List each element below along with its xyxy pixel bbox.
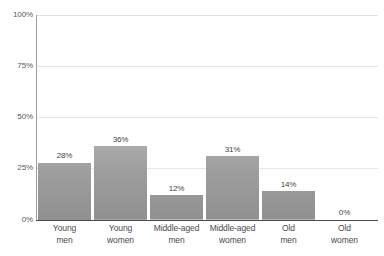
x-label-line1: Old [282, 223, 295, 233]
bar-slot-middle-aged-men: 12% [150, 15, 203, 220]
x-label-line1: Middle-aged [210, 223, 256, 233]
bar-old-men[interactable] [262, 191, 315, 220]
x-label-line1: Young [109, 223, 132, 233]
bar-slot-old-women: 0% [318, 15, 371, 220]
bar-value-old-men: 14% [262, 180, 315, 189]
bars-layer: 28% 36% 12% 31% 14% 0% [36, 15, 378, 220]
y-tick-label-100: 100% [1, 11, 33, 19]
x-label-line2: men [145, 235, 208, 247]
x-label-line2: men [33, 235, 96, 247]
x-axis-baseline [36, 220, 378, 221]
x-label-young-women: Young women [89, 223, 152, 246]
x-label-old-women: Old women [313, 223, 376, 246]
bar-slot-middle-aged-women: 31% [206, 15, 259, 220]
x-label-line2: women [201, 235, 264, 247]
bar-middle-aged-women[interactable] [206, 156, 259, 220]
bar-slot-young-men: 28% [38, 15, 91, 220]
bar-young-women[interactable] [94, 146, 147, 220]
x-label-line1: Young [53, 223, 76, 233]
bar-young-men[interactable] [38, 163, 91, 220]
y-tick-label-0: 0% [1, 216, 33, 224]
x-label-line1: Old [338, 223, 351, 233]
x-label-middle-aged-men: Middle-aged men [145, 223, 208, 246]
bar-value-young-men: 28% [38, 151, 91, 160]
x-label-middle-aged-women: Middle-aged women [201, 223, 264, 246]
bar-value-young-women: 36% [94, 135, 147, 144]
x-label-line2: women [313, 235, 376, 247]
x-label-line2: men [257, 235, 320, 247]
bar-slot-old-men: 14% [262, 15, 315, 220]
bar-value-middle-aged-women: 31% [206, 145, 259, 154]
bar-value-old-women: 0% [318, 208, 371, 217]
x-label-line2: women [89, 235, 152, 247]
y-tick-label-50: 50% [1, 113, 33, 121]
bar-middle-aged-men[interactable] [150, 195, 203, 220]
y-tick-label-75: 75% [1, 62, 33, 70]
y-axis-ticks: 100% 75% 50% 25% 0% [0, 0, 33, 256]
y-tick-label-25: 25% [1, 164, 33, 172]
bar-slot-young-women: 36% [94, 15, 147, 220]
x-label-line1: Middle-aged [154, 223, 200, 233]
bar-value-middle-aged-men: 12% [150, 184, 203, 193]
x-label-old-men: Old men [257, 223, 320, 246]
x-axis-labels: Young men Young women Middle-aged men Mi… [36, 223, 378, 256]
bar-chart: 100% 75% 50% 25% 0% 28% 36% 12% 31% 14% [0, 0, 384, 256]
x-label-young-men: Young men [33, 223, 96, 246]
